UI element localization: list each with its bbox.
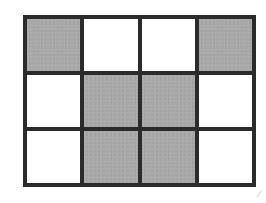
scan-artifact xyxy=(256,190,262,198)
grid-cell-r1-c1-shaded xyxy=(27,19,80,71)
shaded-grid-diagram xyxy=(23,15,256,187)
grid-cell-r3-c2-shaded xyxy=(84,131,137,183)
grid-cell-r2-c1-empty xyxy=(27,75,80,127)
grid-cell-r2-c3-shaded xyxy=(142,75,195,127)
grid-cell-r2-c2-shaded xyxy=(84,75,137,127)
grid-cell-r1-c3-empty xyxy=(142,19,195,71)
grid-cell-r3-c1-empty xyxy=(27,131,80,183)
grid-cell-r1-c2-empty xyxy=(84,19,137,71)
grid-cell-r3-c4-empty xyxy=(199,131,252,183)
grid-cell-r2-c4-empty xyxy=(199,75,252,127)
grid-cell-r3-c3-shaded xyxy=(142,131,195,183)
grid-cell-r1-c4-shaded xyxy=(199,19,252,71)
